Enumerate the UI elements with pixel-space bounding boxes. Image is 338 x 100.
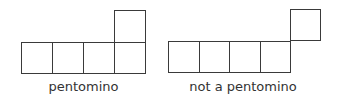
square xyxy=(260,41,291,73)
square xyxy=(52,42,84,74)
square xyxy=(114,10,146,43)
figure-label: not a pentomino xyxy=(168,79,318,94)
square xyxy=(290,9,321,41)
square xyxy=(229,41,261,73)
square xyxy=(199,41,230,73)
square xyxy=(83,42,115,74)
square xyxy=(114,42,146,74)
square xyxy=(21,42,53,74)
square xyxy=(168,41,200,73)
figure-label: pentomino xyxy=(21,79,146,94)
